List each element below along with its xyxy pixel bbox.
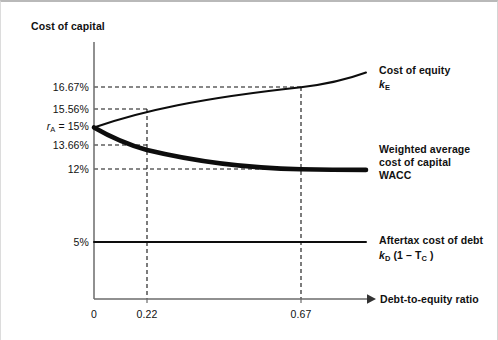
series-label-cost-of-equity: Cost of equity kE (379, 64, 450, 94)
y-tick-label-5: 5% (23, 236, 89, 249)
kd-formula-close: ) (427, 249, 434, 261)
aftertax-cost-of-debt-formula: kD (1 – TC ) (379, 249, 483, 265)
series-label-wacc: Weighted average cost of capital WACC (379, 143, 470, 182)
ra-value: = 15% (55, 120, 89, 132)
series-cost-of-equity (94, 73, 366, 128)
x-tick-label-067: 0.67 (281, 308, 321, 321)
y-tick-label-12: 12% (23, 163, 89, 176)
y-tick-label-15-56: 15.56% (23, 103, 89, 116)
kd-formula-open: (1 – T (390, 249, 421, 261)
y-tick-label-ra-15: rA = 15% (13, 120, 89, 136)
series-label-aftertax-cost-of-debt: Aftertax cost of debt kD (1 – TC ) (379, 234, 483, 265)
ke-subscript: E (385, 83, 390, 92)
x-tick-label-0: 0 (82, 308, 106, 321)
x-tick-label-022: 0.22 (127, 308, 167, 321)
y-tick-label-13-66: 13.66% (23, 139, 89, 152)
cost-of-equity-text: Cost of equity (379, 64, 450, 77)
wacc-line-3: WACC (379, 169, 470, 182)
y-tick-label-16-67: 16.67% (23, 81, 89, 94)
series-wacc (94, 128, 366, 170)
x-axis-title: Debt-to-equity ratio (380, 293, 479, 306)
x-axis-arrow-icon (367, 294, 376, 304)
aftertax-cost-of-debt-text: Aftertax cost of debt (379, 234, 483, 247)
cost-of-equity-symbol: kE (379, 78, 450, 94)
wacc-line-1: Weighted average (379, 143, 470, 156)
y-axis-title: Cost of capital (31, 20, 105, 33)
wacc-line-2: cost of capital (379, 156, 470, 169)
figure-frame: Cost of capital 16.67% 15.56% rA = 15% 1… (0, 0, 498, 340)
